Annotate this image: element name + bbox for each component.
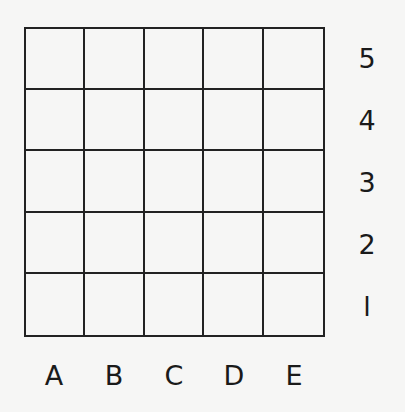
row-label-4: 4	[350, 106, 384, 136]
grid-cell-a2	[26, 213, 85, 274]
grid-cell-d1	[204, 274, 263, 335]
grid-cell-d2	[204, 213, 263, 274]
grid-cell-b4	[85, 90, 144, 151]
column-label-e: E	[264, 360, 324, 392]
grid-cell-e4	[264, 90, 323, 151]
grid-cell-a3	[26, 151, 85, 212]
grid-cell-c5	[145, 29, 204, 90]
grid-cell-b2	[85, 213, 144, 274]
grid-cell-e1	[264, 274, 323, 335]
row-label-1: l	[350, 292, 384, 322]
grid	[24, 27, 325, 337]
grid-cell-c4	[145, 90, 204, 151]
grid-cell-d3	[204, 151, 263, 212]
row-label-3: 3	[350, 168, 384, 198]
grid-cell-a4	[26, 90, 85, 151]
row-label-5: 5	[350, 44, 384, 74]
column-label-a: A	[24, 360, 84, 392]
grid-cell-c3	[145, 151, 204, 212]
grid-cell-d4	[204, 90, 263, 151]
grid-cell-d5	[204, 29, 263, 90]
column-label-b: B	[84, 360, 144, 392]
grid-cell-e2	[264, 213, 323, 274]
grid-cell-e3	[264, 151, 323, 212]
grid-cell-a1	[26, 274, 85, 335]
grid-cell-b3	[85, 151, 144, 212]
grid-cell-b1	[85, 274, 144, 335]
row-label-2: 2	[350, 230, 384, 260]
column-label-c: C	[144, 360, 204, 392]
grid-cell-c1	[145, 274, 204, 335]
column-label-d: D	[204, 360, 264, 392]
grid-cell-c2	[145, 213, 204, 274]
grid-cell-a5	[26, 29, 85, 90]
grid-cell-b5	[85, 29, 144, 90]
grid-cell-e5	[264, 29, 323, 90]
